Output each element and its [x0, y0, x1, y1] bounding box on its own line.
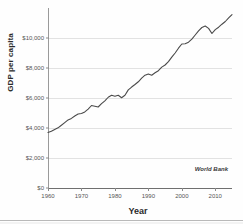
- chart-figure: GDP per capita $10,000$8,000$6,000$4,000…: [0, 0, 243, 224]
- x-tick-label: 2010: [209, 193, 222, 199]
- x-axis-line: [48, 188, 232, 189]
- x-tick-label: 2000: [175, 193, 188, 199]
- x-tick-mark: [81, 188, 82, 191]
- x-tick-label: 1990: [142, 193, 155, 199]
- data-series-line: [48, 8, 232, 188]
- x-tick-mark: [215, 188, 216, 191]
- x-tick-mark: [148, 188, 149, 191]
- page-divider: [0, 220, 243, 221]
- page-edge: [0, 222, 243, 224]
- x-tick-mark: [48, 188, 49, 191]
- x-axis-title: Year: [48, 206, 228, 216]
- plot-area: $10,000$8,000$6,000$4,000$2,000$0 196019…: [48, 8, 232, 188]
- y-tick-label: $10,000: [22, 35, 44, 41]
- x-tick-mark: [115, 188, 116, 191]
- y-tick-label: $8,000: [26, 65, 44, 71]
- source-annotation: World Bank: [195, 166, 228, 172]
- y-tick-label: $0: [37, 185, 44, 191]
- x-tick-label: 1970: [75, 193, 88, 199]
- x-tick-mark: [182, 188, 183, 191]
- x-tick-label: 1980: [108, 193, 121, 199]
- y-axis-title: GDP per capita: [6, 23, 15, 103]
- y-tick-label: $4,000: [26, 125, 44, 131]
- y-tick-label: $2,000: [26, 155, 44, 161]
- x-tick-label: 1960: [41, 193, 54, 199]
- y-tick-label: $6,000: [26, 95, 44, 101]
